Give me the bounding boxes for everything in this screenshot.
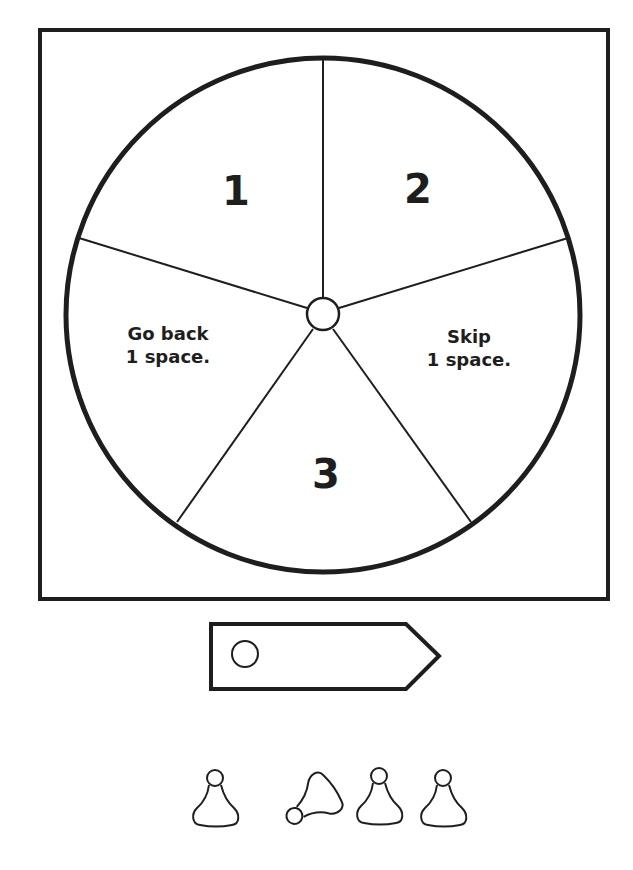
pointer-pivot-hole	[232, 641, 258, 667]
pawn-head	[435, 770, 451, 786]
section-1-label: 1	[222, 168, 250, 214]
pawn-head	[283, 805, 305, 827]
pawn-2-tipped[interactable]	[275, 769, 347, 838]
pawn-head	[371, 768, 387, 784]
spinner-game-sheet: 1 2 3 Go back 1 space. Skip 1 space.	[0, 0, 633, 870]
pawn-3[interactable]	[357, 768, 402, 825]
pawn-icon	[421, 785, 466, 827]
section-3-label: 3	[312, 451, 340, 497]
pawn-icon	[357, 783, 402, 825]
section-2-label: 2	[404, 166, 432, 212]
pawn-icon	[193, 785, 238, 827]
spinner-pointer[interactable]	[211, 624, 439, 689]
pawn-head	[207, 770, 223, 786]
spinner-wheel[interactable]: 1 2 3 Go back 1 space. Skip 1 space.	[66, 58, 580, 572]
section-goback-line2: 1 space.	[126, 346, 210, 367]
pawn-1[interactable]	[193, 770, 238, 827]
pawn-4[interactable]	[421, 770, 466, 827]
section-goback-line1: Go back	[127, 323, 209, 344]
section-skip-line2: 1 space.	[427, 349, 511, 370]
spinner-hub[interactable]	[307, 298, 339, 330]
section-skip-line1: Skip	[447, 326, 491, 347]
